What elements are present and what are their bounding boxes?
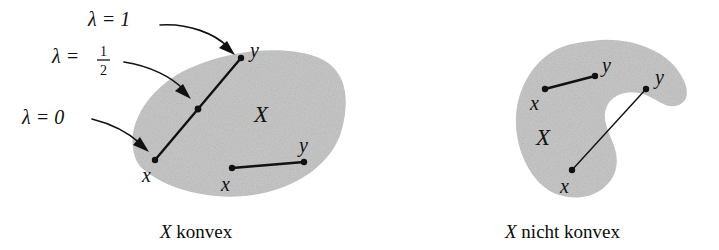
caption-left-text: konvex [176,221,232,242]
label-x-secondary: x [220,173,230,195]
point-y-upper [238,55,244,61]
arrow-curve-lambda-one [160,25,228,47]
caption-right-text: nicht konvex [521,221,620,242]
point-y-secondary [301,159,307,165]
point-y-inside [592,73,598,79]
point-x-lower-left [152,157,158,163]
caption-left: X konvex [160,221,232,243]
annotation-lambda-zero: λ = 0 [21,106,149,152]
label-y-upper: y [248,39,259,62]
right-panel-group: x y x y X [516,40,687,198]
label-y-secondary: y [297,134,308,157]
fraction-denominator: 2 [100,63,107,78]
point-y-outside [643,86,649,92]
point-x-outside [569,167,575,173]
arrow-head-lambda-one [219,41,235,55]
label-y-outside: y [653,66,664,89]
point-midpoint [195,106,202,113]
annotation-lambda-one: λ = 1 [87,8,235,55]
label-lambda-one: λ = 1 [87,8,130,30]
point-x-secondary [229,165,235,171]
label-set-X-right: X [535,125,551,150]
convexity-figure: x y x y X λ = 1 λ = [0,0,719,250]
label-x-inside: x [529,92,539,114]
caption-right-symbol: X [505,221,517,242]
label-y-inside: y [600,54,611,77]
caption-right: X nicht konvex [505,221,620,243]
label-lambda-half: λ = [51,45,79,67]
caption-left-symbol: X [160,221,172,242]
convex-set-shape [133,50,346,196]
label-lambda-zero: λ = 0 [21,106,64,128]
label-set-X-left: X [253,102,269,127]
label-x-lower-left: x [141,164,151,186]
fraction-numerator: 1 [100,44,107,59]
point-x-inside [542,86,548,92]
figure-canvas: x y x y X λ = 1 λ = [0,0,719,250]
fraction-one-half: 1 2 [97,44,110,78]
left-panel-group: x y x y X λ = 1 λ = [21,8,346,197]
label-x-outside: x [559,175,569,197]
